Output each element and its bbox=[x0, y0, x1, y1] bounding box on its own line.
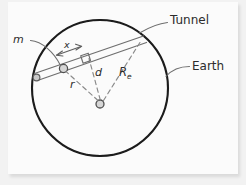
label-displacement-x: x bbox=[63, 39, 70, 50]
label-earth-radius-subscript: e bbox=[127, 72, 132, 81]
label-earth-radius: R e bbox=[119, 65, 132, 81]
leader-line-earth bbox=[166, 67, 190, 77]
label-tunnel: Tunnel bbox=[169, 13, 209, 27]
label-distance-d: d bbox=[95, 66, 103, 79]
tunnel-entry-marker bbox=[33, 74, 40, 81]
earth-tunnel-diagram: m x r d R e Tunnel Earth bbox=[0, 0, 246, 185]
figure-canvas: m x r d R e Tunnel Earth bbox=[0, 0, 246, 185]
earth-center-marker bbox=[96, 100, 104, 108]
label-earth-radius-R: R bbox=[119, 65, 127, 79]
leader-line-mass bbox=[31, 41, 61, 66]
label-radius-r: r bbox=[70, 78, 76, 91]
label-earth: Earth bbox=[192, 59, 224, 73]
earth-circle bbox=[32, 20, 168, 156]
leader-line-tunnel bbox=[140, 23, 168, 34]
label-mass: m bbox=[13, 33, 24, 46]
